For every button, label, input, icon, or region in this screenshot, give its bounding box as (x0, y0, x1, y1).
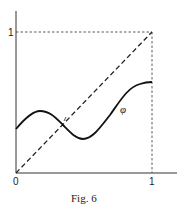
x-tick-label-0: 0 (13, 176, 19, 187)
figure-caption: Fig. 6 (71, 192, 97, 204)
phi-curve (16, 82, 152, 139)
y-tick-label-1: 1 (8, 27, 14, 38)
intersection-tick (64, 117, 66, 121)
x-tick-label-1: 1 (149, 176, 155, 187)
dashed-diagonal (16, 32, 152, 173)
figure-diagram: 1 0 1 φ Fig. 6 (0, 0, 186, 212)
phi-label: φ (120, 103, 126, 115)
